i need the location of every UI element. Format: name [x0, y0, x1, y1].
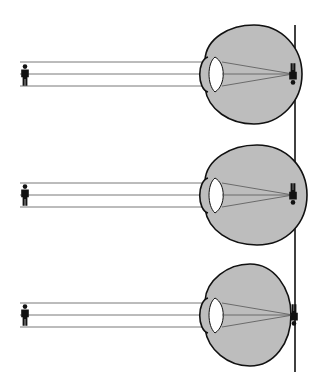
panel-myopia: [20, 145, 307, 245]
panel-normal: [20, 25, 302, 124]
incoming-rays: [20, 303, 205, 327]
incoming-rays: [20, 183, 205, 207]
panel-hyperopia: [20, 264, 298, 366]
person-object-icon: [21, 184, 29, 206]
person-object-icon: [21, 64, 29, 86]
eye-focus-diagram: [0, 0, 325, 386]
incoming-rays: [20, 62, 205, 86]
person-object-icon: [21, 304, 29, 326]
